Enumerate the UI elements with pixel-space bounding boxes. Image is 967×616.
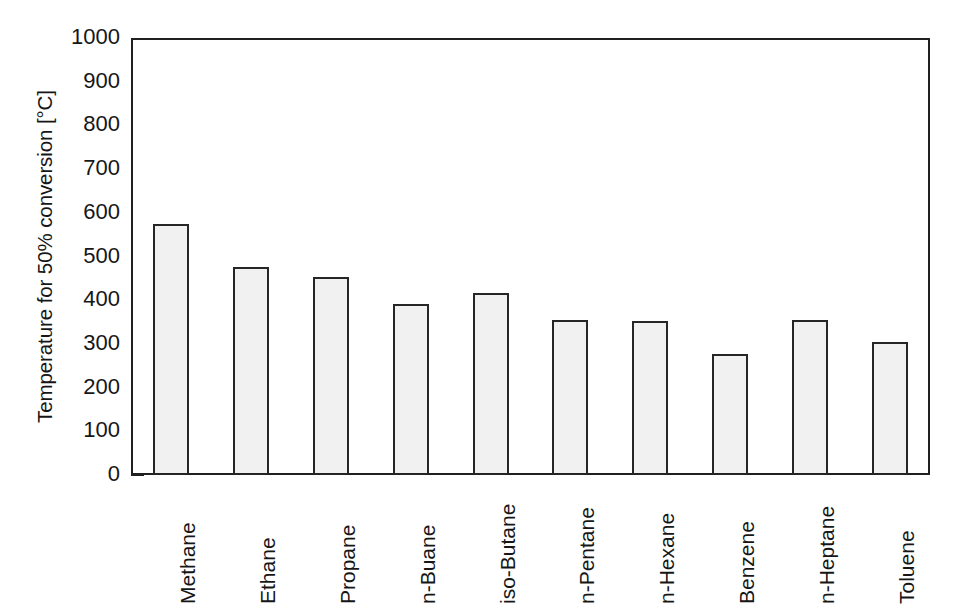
y-tick-label: 400 xyxy=(8,288,120,310)
y-tick-label: 800 xyxy=(8,113,120,135)
y-tick-label: 0 xyxy=(8,463,120,485)
bar xyxy=(792,320,828,475)
bar xyxy=(153,224,189,475)
x-axis-label: n-Heptane xyxy=(816,506,837,604)
y-tick-label: 600 xyxy=(8,201,120,223)
y-tick-label: 500 xyxy=(8,245,120,267)
y-tick-label: 200 xyxy=(8,376,120,398)
x-axis-label: Benzene xyxy=(736,521,757,604)
x-axis-label: iso-Butane xyxy=(497,504,518,604)
x-axis-label: n-Hexane xyxy=(656,513,677,604)
y-tick-label: 900 xyxy=(8,70,120,92)
bar xyxy=(632,321,668,475)
bar xyxy=(712,354,748,475)
bar-series xyxy=(133,40,928,473)
x-axis-label: n-Buane xyxy=(417,525,438,604)
y-tick-label: 700 xyxy=(8,157,120,179)
plot-area xyxy=(131,38,930,475)
y-tick-label: 300 xyxy=(8,332,120,354)
y-tick-label: 1000 xyxy=(8,26,120,48)
x-axis-label: n-Pentane xyxy=(576,507,597,604)
x-axis-label: Methane xyxy=(177,522,198,604)
bar xyxy=(313,277,349,475)
bar xyxy=(872,342,908,475)
bar xyxy=(233,267,269,475)
bar xyxy=(473,293,509,475)
x-axis-label: Propane xyxy=(337,525,358,604)
bar-chart-figure: Temperature for 50% conversion [°C] 1000… xyxy=(0,0,967,616)
x-axis-label: Toluene xyxy=(896,530,917,604)
x-axis-label: Ethane xyxy=(257,537,278,604)
y-tick-label: 100 xyxy=(8,419,120,441)
bar xyxy=(393,304,429,475)
bar xyxy=(552,320,588,475)
